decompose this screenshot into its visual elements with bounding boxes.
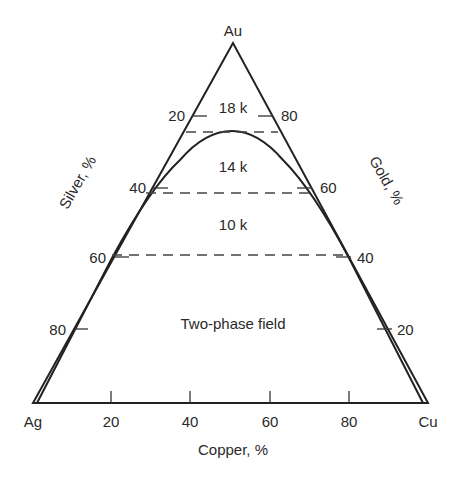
ternary-diagram: Au Ag Cu 20 40 60 80 20 40 60 80 80 60 4… (0, 0, 451, 483)
axis-title-copper: Copper, % (198, 441, 268, 458)
vertex-label-ag: Ag (24, 413, 42, 430)
axis-title-gold: Gold, % (366, 153, 407, 208)
region-label-18k: 18 k (219, 99, 248, 116)
vertex-label-cu: Cu (418, 413, 437, 430)
axis-title-silver: Silver, % (55, 153, 99, 212)
tick-label-right-40: 40 (357, 249, 374, 266)
tick-label-bottom-20: 20 (103, 413, 120, 430)
tick-label-bottom-60: 60 (262, 413, 279, 430)
tick-label-left-20: 20 (168, 107, 185, 124)
tick-label-left-80: 80 (49, 321, 66, 338)
vertex-label-au: Au (224, 22, 242, 39)
tick-label-bottom-40: 40 (182, 413, 199, 430)
region-label-10k: 10 k (219, 216, 248, 233)
tick-label-left-60: 60 (89, 249, 106, 266)
region-label-two-phase: Two-phase field (180, 315, 285, 332)
region-label-14k: 14 k (219, 158, 248, 175)
tick-label-right-60: 60 (320, 179, 337, 196)
tick-label-right-20: 20 (397, 321, 414, 338)
tick-label-left-40: 40 (129, 179, 146, 196)
tick-label-bottom-80: 80 (341, 413, 358, 430)
tick-label-right-80: 80 (281, 107, 298, 124)
